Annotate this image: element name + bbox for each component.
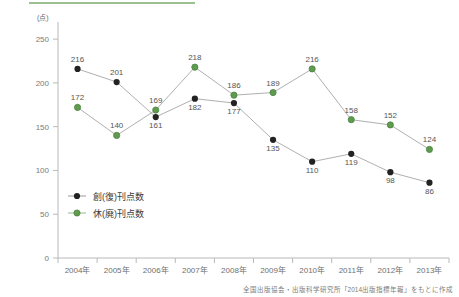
data-point-value-label: 161 bbox=[149, 121, 163, 130]
data-point-value-label: 135 bbox=[266, 144, 280, 153]
data-point-marker bbox=[426, 180, 432, 186]
data-point-value-label: 201 bbox=[110, 68, 124, 77]
data-point-marker bbox=[270, 89, 276, 95]
chart-container: (点) 050100150200250 2004年2005年2006年2007年… bbox=[0, 0, 459, 297]
series-line bbox=[78, 67, 430, 149]
data-point-value-label: 186 bbox=[227, 81, 241, 90]
data-point-value-label: 124 bbox=[423, 135, 437, 144]
source-note: 全国出版協会・出版科学研究所「2014出版指標年報」をもとに作成 bbox=[243, 284, 453, 294]
data-point-marker bbox=[153, 114, 159, 120]
data-point-marker bbox=[309, 66, 315, 72]
series-lines bbox=[74, 64, 432, 186]
data-point-value-label: 189 bbox=[266, 79, 280, 88]
legend-marker bbox=[74, 210, 80, 216]
data-point-value-label: 216 bbox=[305, 55, 319, 64]
y-axis-tick-label: 50 bbox=[40, 210, 49, 219]
chart-legend: 創(復)刊点数休(廃)刊点数 bbox=[68, 191, 144, 219]
data-point-value-label: 110 bbox=[306, 166, 319, 175]
data-point-value-label: 158 bbox=[345, 106, 359, 115]
y-axis-tick-label: 0 bbox=[45, 254, 50, 263]
y-axis-tick-label: 200 bbox=[36, 79, 50, 88]
data-point-marker bbox=[74, 104, 80, 110]
legend-label: 創(復)刊点数 bbox=[93, 191, 144, 202]
data-point-value-label: 169 bbox=[149, 96, 163, 105]
data-point-marker bbox=[309, 159, 315, 165]
x-axis-tick-label: 2009年 bbox=[260, 265, 286, 275]
x-axis-tick-label: 2011年 bbox=[339, 265, 364, 275]
data-point-value-label: 140 bbox=[110, 121, 124, 130]
data-point-value-label: 177 bbox=[227, 107, 241, 116]
data-point-marker bbox=[387, 122, 393, 128]
data-point-value-label: 152 bbox=[384, 111, 398, 120]
data-point-marker bbox=[348, 117, 354, 123]
data-point-value-label: 86 bbox=[425, 187, 434, 196]
x-axis-tick-label: 2006年 bbox=[143, 265, 169, 275]
y-axis-tick-label: 150 bbox=[36, 123, 50, 132]
data-point-marker bbox=[231, 100, 237, 106]
data-point-value-label: 218 bbox=[188, 53, 202, 62]
data-point-marker bbox=[153, 107, 159, 113]
data-point-marker bbox=[348, 151, 354, 157]
value-labels: 2162011611821771351101199886172140169218… bbox=[71, 53, 437, 196]
data-point-marker bbox=[192, 64, 198, 70]
x-axis-tick-label: 2007年 bbox=[182, 265, 208, 275]
line-chart-svg: 050100150200250 2004年2005年2006年2007年2008… bbox=[0, 0, 459, 297]
x-axis: 2004年2005年2006年2007年2008年2009年2010年2011年… bbox=[58, 258, 449, 275]
x-axis-tick-label: 2005年 bbox=[104, 265, 130, 275]
x-axis-tick-label: 2008年 bbox=[221, 265, 247, 275]
legend-label: 休(廃)刊点数 bbox=[93, 208, 144, 219]
y-axis-tick-label: 100 bbox=[36, 166, 50, 175]
legend-marker bbox=[74, 193, 80, 199]
data-point-value-label: 182 bbox=[188, 103, 202, 112]
x-axis-tick-label: 2010年 bbox=[299, 265, 325, 275]
data-point-marker bbox=[114, 132, 120, 138]
data-point-marker bbox=[231, 92, 237, 98]
data-point-marker bbox=[74, 66, 80, 72]
data-point-marker bbox=[387, 169, 393, 175]
y-axis-tick-label: 250 bbox=[36, 35, 50, 44]
x-axis-tick-label: 2004年 bbox=[65, 265, 91, 275]
data-point-value-label: 172 bbox=[71, 93, 85, 102]
data-point-marker bbox=[114, 79, 120, 85]
x-axis-tick-label: 2013年 bbox=[417, 265, 443, 275]
data-point-value-label: 98 bbox=[386, 176, 395, 185]
data-point-marker bbox=[192, 96, 198, 102]
series-line bbox=[78, 69, 430, 183]
data-point-value-label: 216 bbox=[71, 55, 85, 64]
y-axis: 050100150200250 bbox=[36, 22, 58, 263]
x-axis-tick-label: 2012年 bbox=[377, 265, 403, 275]
data-point-marker bbox=[270, 137, 276, 143]
data-point-marker bbox=[426, 146, 432, 152]
data-point-value-label: 119 bbox=[345, 158, 358, 167]
